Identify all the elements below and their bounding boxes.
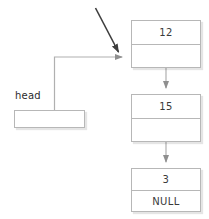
node-1-data-cell: 12 xyxy=(132,21,200,45)
list-node-3: 3 NULL xyxy=(131,168,201,212)
list-node-2: 15 xyxy=(131,94,201,142)
node-3-next-cell: NULL xyxy=(132,191,200,212)
head-pointer-label: head xyxy=(15,91,41,101)
node-2-data-cell: 15 xyxy=(132,95,200,119)
node-1-next-cell xyxy=(132,45,200,68)
node-3-data-cell: 3 xyxy=(132,169,200,191)
node-2-next-cell xyxy=(132,119,200,142)
pointer-annotation-arrow xyxy=(96,8,119,52)
head-pointer-box xyxy=(14,110,85,128)
list-node-1: 12 xyxy=(131,20,201,68)
linked-list-diagram: 12 15 3 NULL head xyxy=(0,0,209,219)
